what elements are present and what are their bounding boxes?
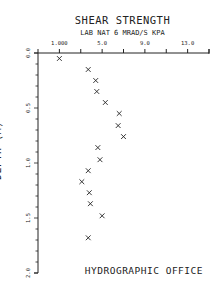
- svg-text:13.0: 13.0: [181, 40, 194, 46]
- svg-text:1.0: 1.0: [25, 158, 31, 168]
- svg-text:2.0: 2.0: [25, 268, 31, 278]
- source-label: HYDROGRAPHIC OFFICE: [85, 265, 203, 276]
- svg-text:1.000: 1.000: [51, 40, 68, 46]
- data-point-x-marker: [88, 201, 93, 206]
- data-point-x-marker: [121, 134, 126, 139]
- svg-text:0.0: 0.0: [25, 48, 31, 58]
- data-point-x-marker: [116, 123, 121, 128]
- data-point-x-marker: [98, 157, 103, 162]
- data-point-x-marker: [86, 67, 91, 72]
- data-point-x-marker: [86, 235, 91, 240]
- data-point-x-marker: [117, 111, 122, 116]
- data-point-x-marker: [103, 100, 108, 105]
- svg-text:5.0: 5.0: [97, 40, 107, 46]
- data-point-x-marker: [93, 78, 98, 83]
- data-point-x-marker: [79, 179, 84, 184]
- svg-text:9.0: 9.0: [140, 40, 150, 46]
- svg-text:0.5: 0.5: [25, 103, 31, 113]
- plot-area: 1.0005.09.013.0 0.00.51.01.52.0: [0, 0, 217, 301]
- data-point-x-marker: [86, 168, 91, 173]
- data-point-x-marker: [87, 190, 92, 195]
- y-axis-ticks: 0.00.51.01.52.0: [25, 48, 38, 278]
- x-axis-ticks: 1.0005.09.013.0: [38, 40, 209, 53]
- axes: [34, 49, 209, 273]
- y-axis-label: DEPTH (M): [0, 121, 3, 180]
- data-point-x-marker: [57, 56, 62, 61]
- data-point-x-marker: [95, 145, 100, 150]
- data-point-x-marker: [100, 213, 105, 218]
- data-point-x-marker: [94, 89, 99, 94]
- data-points: [57, 56, 126, 240]
- svg-text:1.5: 1.5: [25, 213, 31, 223]
